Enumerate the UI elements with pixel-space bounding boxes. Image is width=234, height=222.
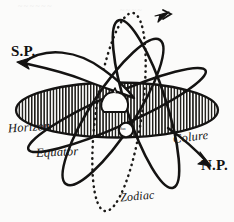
celestial-sphere-figure: ~~~~~~ ~~~~ <box>0 0 234 222</box>
label-center-marker: Sun <box>120 127 126 131</box>
label-south-pole: S.P. <box>11 44 35 59</box>
label-horizon: Horizon <box>8 120 51 135</box>
diagram-canvas <box>0 0 234 222</box>
label-north-pole: N.P. <box>201 158 228 173</box>
label-zodiac: Zodiac <box>120 189 155 204</box>
label-equator: Equator <box>36 145 79 160</box>
